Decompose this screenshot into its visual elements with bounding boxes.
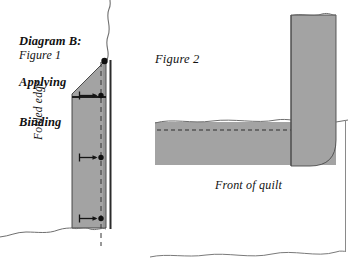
front-of-quilt-annotation: Front of quilt (215, 178, 282, 193)
figure1-torn-top-edge-icon (107, 0, 111, 60)
folded-edge-annotation: Folded edge (32, 81, 44, 140)
figure2-band-right-tick (336, 120, 348, 122)
page-title: Diagram B: Applying Binding (19, 8, 81, 157)
page-title-line-1: Diagram B: (19, 35, 81, 49)
figure2-caption: Figure 2 (155, 52, 200, 67)
figure1-corner-pivot-dot (101, 58, 107, 64)
page-title-line-3: Binding (19, 116, 81, 130)
page-title-line-2: Applying (19, 76, 81, 90)
figure1-white-gap-strip (106, 60, 110, 229)
figure1-torn-bottom-edge-icon (0, 228, 72, 237)
diagram-page: Diagram B: Applying Binding Figure 1 Fig… (0, 0, 364, 276)
figure2-vertical-binding-strip (291, 15, 336, 166)
figure2-group (150, 13, 348, 257)
figure1-caption: Figure 1 (19, 48, 61, 63)
figure2-page-bottom-torn-icon (150, 251, 346, 257)
